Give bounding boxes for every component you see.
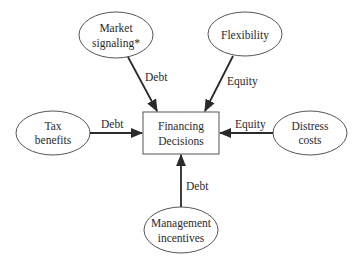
flexibility-edge-label: Equity bbox=[227, 75, 258, 88]
tax-benefits-node: Tax benefits bbox=[16, 111, 90, 155]
distress-costs-label-line2: costs bbox=[299, 134, 323, 146]
financing-decisions-box: Financing Decisions bbox=[143, 112, 219, 154]
financing-decisions-label-line1: Financing bbox=[158, 120, 204, 133]
market-signaling-edge-label: Debt bbox=[145, 71, 168, 83]
market-signaling-label-line1: Market bbox=[99, 22, 133, 34]
management-incentives-node: Management incentives bbox=[144, 207, 218, 253]
flexibility-node: Flexibility bbox=[208, 12, 282, 56]
distress-costs-label-line1: Distress bbox=[291, 120, 329, 132]
market-signaling-node: Market signaling* bbox=[79, 12, 153, 58]
market-signaling-label-line2: signaling* bbox=[92, 37, 140, 50]
distress-costs-node: Distress costs bbox=[273, 111, 347, 155]
market-signaling-arrow bbox=[128, 57, 157, 111]
distress-costs-edge-label: Equity bbox=[235, 118, 266, 131]
financing-decisions-label-line2: Decisions bbox=[158, 135, 204, 147]
tax-benefits-label-line2: benefits bbox=[35, 134, 72, 146]
management-incentives-label-line2: incentives bbox=[158, 232, 205, 244]
tax-benefits-edge-label: Debt bbox=[101, 118, 124, 130]
financing-decisions-diagram: Financing Decisions Market signaling* De… bbox=[0, 0, 361, 259]
management-incentives-label-line1: Management bbox=[151, 217, 212, 230]
tax-benefits-label-line1: Tax bbox=[44, 120, 61, 132]
management-incentives-edge-label: Debt bbox=[186, 180, 209, 192]
flexibility-label: Flexibility bbox=[221, 29, 269, 42]
